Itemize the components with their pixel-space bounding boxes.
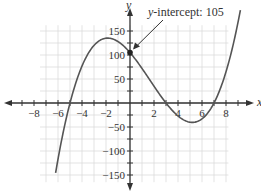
cubic-function-graph: yx −8−6−4−2246815010050−50−100−150 y-int…: [0, 0, 261, 191]
y-tick-label: −50: [108, 121, 126, 133]
x-axis-left-arrow-icon: [4, 100, 12, 106]
x-tick-label: −8: [28, 107, 40, 119]
y-intercept-point: [127, 50, 133, 56]
y-tick-label: −150: [102, 169, 125, 181]
y-tick-label: 100: [109, 49, 126, 61]
x-tick-label: −4: [76, 107, 88, 119]
x-tick-label: 8: [223, 107, 229, 119]
y-axis-down-arrow-icon: [127, 183, 133, 191]
x-axis-right-arrow-icon: [246, 100, 254, 106]
x-tick-label: −6: [52, 107, 64, 119]
x-tick-label: 2: [151, 107, 157, 119]
x-axis-label: x: [256, 95, 261, 109]
y-axis-label: y: [125, 0, 132, 12]
y-tick-label: 50: [114, 73, 126, 85]
y-tick-label: 150: [109, 25, 126, 37]
annotation-arrow: [134, 20, 163, 49]
axes: yx: [4, 0, 261, 191]
annotation-text: y-intercept: 105: [147, 5, 224, 19]
x-tick-label: −2: [100, 107, 112, 119]
y-tick-label: −100: [102, 145, 125, 157]
